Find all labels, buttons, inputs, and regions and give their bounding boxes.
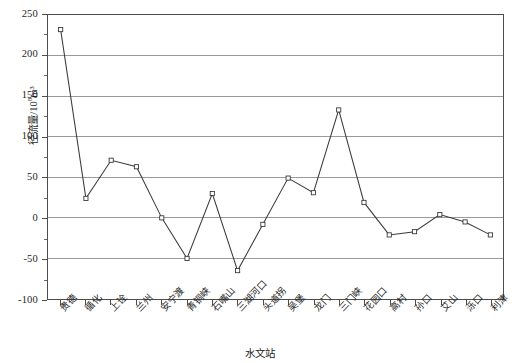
data-point-marker bbox=[109, 158, 113, 162]
data-series bbox=[48, 15, 503, 299]
data-point-marker bbox=[412, 230, 416, 234]
y-axis-title-exponent: 8 bbox=[26, 98, 34, 102]
y-tick-label: 0 bbox=[2, 213, 38, 224]
y-axis-title-base: 径流量/10 bbox=[28, 101, 39, 144]
data-point-marker bbox=[362, 200, 366, 204]
y-tick-label: 250 bbox=[2, 9, 38, 20]
data-point-marker bbox=[311, 191, 315, 195]
data-point-marker bbox=[235, 269, 239, 273]
data-point-marker bbox=[134, 165, 138, 169]
runoff-line-chart: 径流量/108m³ 250200150100500-50-100 贵德循化上诠兰… bbox=[0, 0, 519, 363]
data-point-marker bbox=[488, 233, 492, 237]
y-tick-mark bbox=[42, 300, 47, 301]
data-point-marker bbox=[337, 108, 341, 112]
data-point-marker bbox=[59, 28, 63, 32]
data-point-marker bbox=[261, 222, 265, 226]
data-point-marker bbox=[84, 196, 88, 200]
x-axis-title: 水文站 bbox=[0, 345, 519, 360]
series-line-runoff bbox=[61, 30, 491, 271]
data-point-marker bbox=[160, 216, 164, 220]
y-tick-label: -50 bbox=[2, 254, 38, 265]
y-axis-title-unit: m³ bbox=[28, 86, 39, 97]
data-point-marker bbox=[387, 233, 391, 237]
plot-area bbox=[47, 14, 504, 300]
data-point-marker bbox=[286, 176, 290, 180]
data-point-marker bbox=[210, 191, 214, 195]
data-point-marker bbox=[463, 220, 467, 224]
y-axis-title: 径流量/108m³ bbox=[25, 56, 40, 176]
y-tick-label: -100 bbox=[2, 295, 38, 306]
data-point-marker bbox=[438, 213, 442, 217]
data-point-marker bbox=[185, 256, 189, 260]
